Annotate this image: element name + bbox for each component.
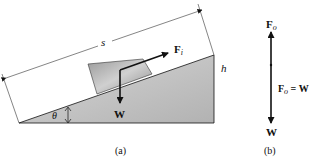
height-label-h: h [221,63,227,74]
length-label-s: s [101,37,105,48]
force-label-fo-sub: o [273,23,277,32]
equation-rest: = W [288,83,309,94]
caption-b: (b) [264,146,276,156]
force-label-fo-main: F [266,18,273,30]
panel-b-force-arrows [270,32,272,123]
force-label-fo: Fo [266,19,277,32]
force-label-fi-sub: i [181,48,183,57]
force-label-fi-main: F [174,43,181,55]
angle-label-theta: θ [52,111,57,121]
weight-label-w-b: W [266,127,277,138]
weight-label-w: W [114,109,125,120]
force-label-fi: Fi [174,44,183,57]
equation-label: Fo = W [278,84,309,96]
caption-a: (a) [115,146,126,156]
